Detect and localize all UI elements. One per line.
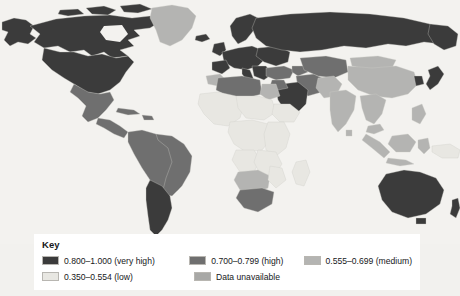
legend-swatch-medium xyxy=(304,256,321,265)
legend-title: Key xyxy=(42,239,412,250)
legend-label-low: 0.350–0.554 (low) xyxy=(64,272,133,282)
legend-swatch-no-data xyxy=(194,272,211,281)
legend-swatch-very-high xyxy=(42,256,59,265)
map-legend: Key 0.800–1.000 (very high) 0.700–0.799 … xyxy=(34,234,420,290)
legend-swatch-low xyxy=(42,272,59,281)
legend-item-low[interactable]: 0.350–0.554 (low) xyxy=(42,269,194,284)
legend-row-1: 0.800–1.000 (very high) 0.700–0.799 (hig… xyxy=(42,253,412,268)
world-map xyxy=(0,0,460,244)
world-map-svg xyxy=(0,0,460,244)
legend-item-no-data[interactable]: Data unavailable xyxy=(194,269,312,284)
region-sri-lanka xyxy=(346,130,352,136)
legend-item-very-high[interactable]: 0.800–1.000 (very high) xyxy=(42,253,189,268)
legend-item-high[interactable]: 0.700–0.799 (high) xyxy=(189,253,303,268)
legend-label-medium: 0.555–0.699 (medium) xyxy=(326,256,412,266)
hdi-world-map-figure: Key 0.800–1.000 (very high) 0.700–0.799 … xyxy=(0,0,460,296)
legend-label-no-data: Data unavailable xyxy=(216,272,280,282)
region-tasmania xyxy=(416,218,426,224)
legend-item-medium[interactable]: 0.555–0.699 (medium) xyxy=(304,253,412,268)
legend-row-2: 0.350–0.554 (low) Data unavailable xyxy=(42,269,412,284)
legend-label-high: 0.700–0.799 (high) xyxy=(211,256,283,266)
legend-swatch-high xyxy=(189,256,206,265)
legend-label-very-high: 0.800–1.000 (very high) xyxy=(64,256,155,266)
